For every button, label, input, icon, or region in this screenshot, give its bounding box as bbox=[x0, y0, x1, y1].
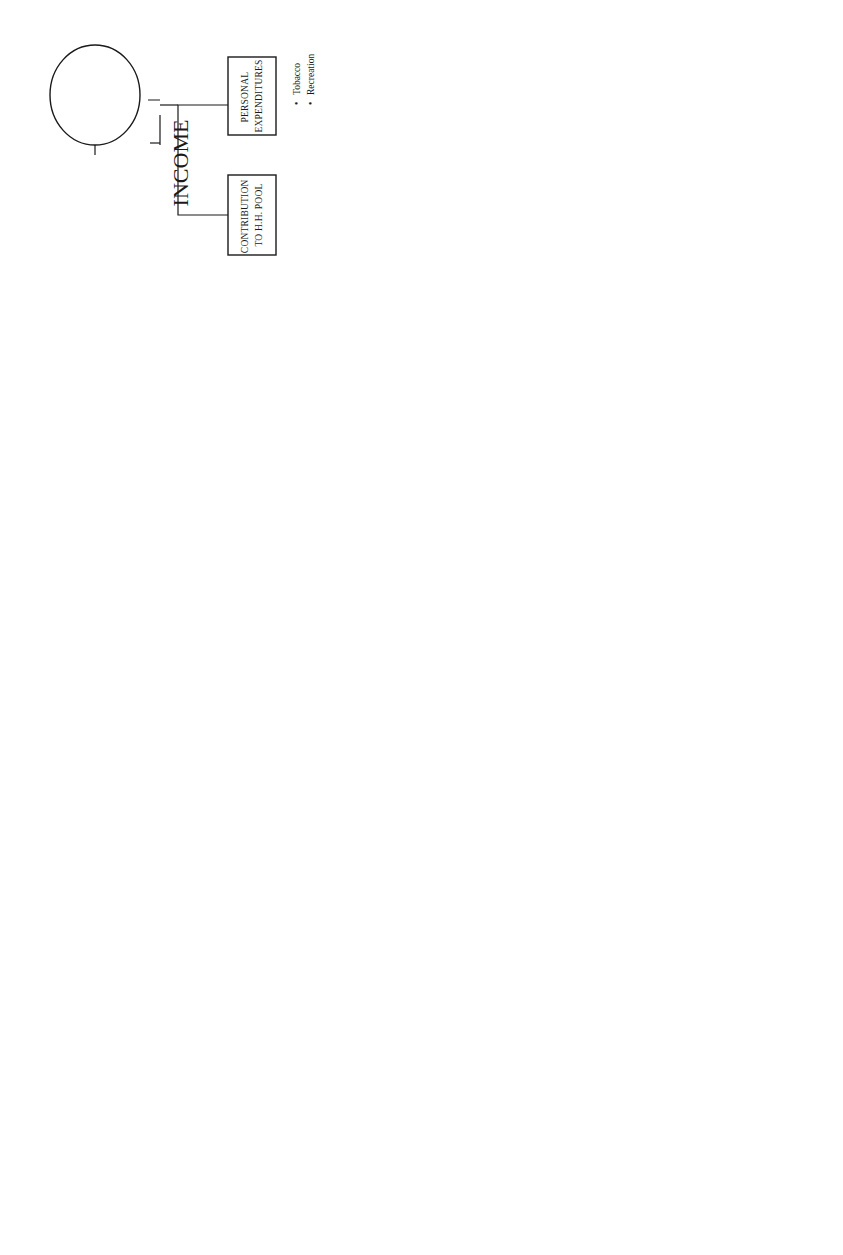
mother-income-group: INCOME PERSONAL EXPENDITURES CONTRIBUTIO… bbox=[50, 45, 316, 255]
mother-personal-expenditures-label: PERSONAL EXPENDITURES bbox=[240, 59, 264, 132]
mother-personal-items: •Tobacco •Recreation bbox=[292, 54, 316, 105]
diagram-canvas: INCOME PERSONAL EXPENDITURES CONTRIBUTIO… bbox=[0, 0, 843, 1255]
mother-contribution-label: CONTRIBUTION TO H.H. POOL bbox=[240, 177, 264, 253]
circle-symbol-icon bbox=[50, 45, 140, 145]
mother-income-label: INCOME bbox=[168, 120, 193, 207]
mother-personal-expenditures-box bbox=[228, 57, 276, 135]
household-income-flow-diagram: INCOME PERSONAL EXPENDITURES CONTRIBUTIO… bbox=[0, 0, 843, 1255]
mother-contribution-box bbox=[228, 175, 276, 255]
